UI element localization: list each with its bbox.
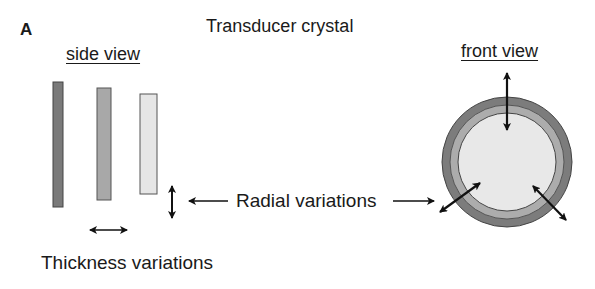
radial-variations-label: Radial variations: [236, 190, 376, 212]
diagram-graphics: [0, 0, 595, 289]
thickness-variations-label: Thickness variations: [41, 252, 213, 274]
bar-thin: [140, 94, 157, 194]
bar-thick: [53, 82, 63, 207]
bar-medium: [97, 88, 111, 200]
